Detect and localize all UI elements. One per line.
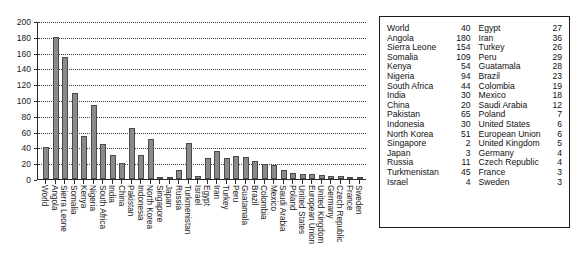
x-tick-mark: [45, 180, 46, 184]
x-tick-label: World: [40, 185, 48, 206]
bar: [148, 139, 154, 179]
x-tick-mark: [359, 180, 360, 184]
x-tick-label: North Korea: [145, 185, 153, 229]
table-column-right: Egypt27Iran36Turkey26Peru29Guatamala28Br…: [479, 24, 563, 221]
x-tick-label: Indonesia: [135, 185, 143, 221]
bar: [309, 174, 315, 179]
x-tick-label: Israel: [192, 185, 200, 205]
x-tick-mark: [112, 180, 113, 184]
figure: 020406080100120140160180200 WorldAngolaS…: [0, 0, 579, 267]
bar: [300, 174, 306, 179]
y-tick-mark: [34, 54, 38, 55]
table-cell-value: 4: [462, 178, 471, 188]
y-tick-label: 200: [0, 18, 31, 27]
y-tick-mark: [34, 101, 38, 102]
bar: [186, 143, 192, 179]
y-tick-mark: [34, 180, 38, 181]
bar: [205, 158, 211, 179]
bar: [271, 165, 277, 179]
x-tick-mark: [83, 180, 84, 184]
y-tick-label: 180: [0, 34, 31, 43]
x-tick-mark: [178, 180, 179, 184]
x-tick-label: United States: [297, 185, 305, 234]
bar: [338, 176, 344, 179]
x-tick-label: Poland: [288, 185, 296, 211]
x-tick-label: Mexico: [268, 185, 276, 211]
bar-series: [38, 22, 366, 179]
y-tick-label: 40: [0, 144, 31, 153]
bar: [243, 157, 249, 179]
bar: [110, 155, 116, 179]
x-tick-label: China: [116, 185, 124, 206]
bar: [91, 105, 97, 179]
x-tick-mark: [207, 180, 208, 184]
bar: [81, 136, 87, 179]
data-table-panel: World40Angola180Sierra Leone154Somalia10…: [379, 16, 570, 228]
bar: [167, 177, 173, 179]
bar: [176, 170, 182, 179]
bar: [138, 155, 144, 179]
x-tick-label: Egypt: [202, 185, 210, 206]
x-tick-label: France: [345, 185, 353, 210]
y-tick-mark: [34, 69, 38, 70]
bar: [72, 93, 78, 179]
x-tick-mark: [226, 180, 227, 184]
x-tick-label: Japan: [164, 185, 172, 207]
y-tick-label: 100: [0, 97, 31, 106]
x-tick-mark: [74, 180, 75, 184]
x-tick-mark: [254, 180, 255, 184]
x-tick-mark: [311, 180, 312, 184]
table-row: Sweden3: [479, 178, 563, 188]
x-tick-mark: [340, 180, 341, 184]
table-row: Israel4: [387, 178, 471, 188]
x-tick-mark: [330, 180, 331, 184]
bar: [290, 173, 296, 179]
x-tick-mark: [169, 180, 170, 184]
bar: [347, 177, 353, 179]
bar: [129, 128, 135, 179]
table-column-left: World40Angola180Sierra Leone154Somalia10…: [387, 24, 471, 221]
y-tick-mark: [34, 38, 38, 39]
y-tick-mark: [34, 22, 38, 23]
x-tick-label: European Union: [307, 185, 315, 244]
bar: [119, 163, 125, 179]
x-tick-mark: [321, 180, 322, 184]
x-tick-mark: [131, 180, 132, 184]
x-tick-label: Saudi Arabia: [278, 185, 286, 231]
y-tick-mark: [34, 85, 38, 86]
x-tick-mark: [197, 180, 198, 184]
x-tick-mark: [93, 180, 94, 184]
table-cell-value: 3: [553, 178, 562, 188]
bar: [262, 164, 268, 179]
x-tick-label: South Africa: [97, 185, 105, 229]
bar: [43, 147, 49, 179]
y-tick-label: 20: [0, 160, 31, 169]
x-tick-label: Germany: [326, 185, 334, 219]
y-tick-mark: [34, 148, 38, 149]
y-tick-label: 160: [0, 50, 31, 59]
x-tick-mark: [150, 180, 151, 184]
x-tick-mark: [349, 180, 350, 184]
bar: [252, 161, 258, 179]
bar: [328, 176, 334, 179]
x-tick-mark: [283, 180, 284, 184]
x-tick-mark: [64, 180, 65, 184]
x-tick-label: United Kingdom: [316, 185, 324, 243]
x-tick-label: Turkmenistan: [183, 185, 191, 234]
x-tick-label: Russia: [173, 185, 181, 210]
x-tick-label: Guatamala: [240, 185, 248, 225]
x-tick-mark: [292, 180, 293, 184]
y-tick-label: 60: [0, 129, 31, 138]
y-tick-label: 120: [0, 81, 31, 90]
y-tick-mark: [34, 133, 38, 134]
bar: [195, 176, 201, 179]
bar: [319, 175, 325, 179]
x-tick-mark: [302, 180, 303, 184]
bar: [100, 144, 106, 179]
x-tick-mark: [235, 180, 236, 184]
bar: [357, 177, 363, 179]
bar: [214, 151, 220, 179]
y-tick-label: 80: [0, 113, 31, 122]
plot-area: [37, 22, 366, 180]
x-tick-mark: [102, 180, 103, 184]
